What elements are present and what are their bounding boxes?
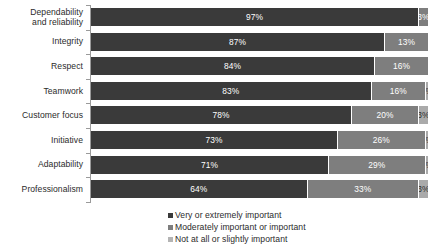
bar-value-label: 20% [377,110,394,120]
bar-segment: 83% [91,82,371,100]
bar-segment: 64% [91,180,307,198]
bar-value-label: 78% [213,110,230,120]
bar-segment: 20% [351,106,418,124]
bar-value-label: 1% [425,86,428,96]
category-label-line: Adaptability [38,159,83,169]
bar-row: Integrity87%13% [0,30,440,54]
bar-track: 71%29%1% [91,156,428,174]
bar-value-label: 26% [373,135,390,145]
legend-item[interactable]: Very or extremely important [168,209,418,221]
bar-row: Respect84%16% [0,54,440,78]
bar-value-label: 3% [418,184,428,194]
category-label-line: Teamwork [43,86,83,96]
bar-value-label: 16% [393,61,410,71]
bar-value-label: 84% [224,61,241,71]
bar-value-label: 87% [229,37,246,47]
bar-row: Initiative73%26%1% [0,128,440,152]
bar-row: Dependabilityand reliability97%3% [0,5,440,29]
axis-tick [86,202,90,203]
bar-value-label: 1% [425,160,428,170]
bar-track: 87%13% [91,33,428,51]
bar-segment: 26% [337,131,425,149]
bar-track: 73%26%1% [91,131,428,149]
bar-segment: 16% [371,82,425,100]
bar-value-label: 16% [390,86,407,96]
bar-value-label: 83% [222,86,239,96]
stacked-bar-chart: Dependabilityand reliability97%3%Integri… [0,0,440,250]
bar-value-label: 29% [368,160,385,170]
bar-row: Customer focus78%20%3% [0,103,440,127]
legend-label: Not at all or slightly important [175,233,287,245]
bar-segment: 71% [91,156,328,174]
legend-swatch-icon [168,237,173,242]
bar-row: Adaptability71%29%1% [0,153,440,177]
category-label: Professionalism [0,177,83,201]
legend-label: Very or extremely important [175,209,281,221]
bar-value-label: 33% [354,184,371,194]
bar-segment: 16% [374,57,428,75]
legend-item[interactable]: Not at all or slightly important [168,233,418,245]
category-label-line: and reliability [32,17,83,27]
bar-track: 78%20%3% [91,106,428,124]
category-label-line: Dependability [30,7,83,17]
bar-value-label: 64% [190,184,207,194]
bar-segment: 84% [91,57,374,75]
category-label: Initiative [0,128,83,152]
bar-row: Teamwork83%16%1% [0,79,440,103]
category-label: Dependabilityand reliability [0,5,83,29]
category-label: Adaptability [0,153,83,177]
chart-legend: Very or extremely importantModerately im… [168,209,418,245]
legend-swatch-icon [168,213,173,218]
category-label: Respect [0,54,83,78]
bar-segment: 87% [91,33,384,51]
bar-segment: 78% [91,106,351,124]
category-label: Teamwork [0,79,83,103]
bar-segment: 3% [418,106,428,124]
bar-segment: 1% [425,131,428,149]
bar-value-label: 73% [205,135,222,145]
bar-segment: 33% [307,180,418,198]
bar-segment: 1% [425,156,428,174]
bar-value-label: 13% [398,37,415,47]
bar-value-label: 3% [418,110,428,120]
bar-value-label: 97% [246,12,263,22]
plot-area: Dependabilityand reliability97%3%Integri… [0,0,440,208]
bar-segment: 97% [91,8,418,26]
bar-track: 64%33%3% [91,180,428,198]
bar-track: 97%3% [91,8,428,26]
bar-track: 83%16%1% [91,82,428,100]
category-label-line: Respect [51,61,83,71]
bar-value-label: 3% [418,12,428,22]
bar-track: 84%16% [91,57,428,75]
bar-row: Professionalism64%33%3% [0,177,440,201]
category-label-line: Integrity [52,36,83,46]
bar-segment: 3% [418,180,428,198]
bar-segment: 1% [425,82,428,100]
category-label: Customer focus [0,103,83,127]
bar-value-label: 71% [201,160,218,170]
bar-segment: 73% [91,131,337,149]
legend-label: Moderately important or important [175,221,306,233]
bar-segment: 13% [384,33,428,51]
bar-segment: 3% [418,8,428,26]
bar-segment: 29% [328,156,425,174]
category-label-line: Initiative [51,135,83,145]
category-label-line: Professionalism [22,184,83,194]
category-label: Integrity [0,30,83,54]
legend-swatch-icon [168,225,173,230]
category-label-line: Customer focus [22,110,83,120]
legend-item[interactable]: Moderately important or important [168,221,418,233]
bar-value-label: 1% [425,135,428,145]
